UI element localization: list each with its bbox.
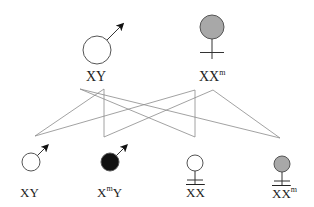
genotype-text: XX [186,185,205,200]
genotype-text: Y [113,185,122,200]
genotype-superscript: m [106,184,112,193]
genotype-superscript: m [219,68,225,77]
cross-line [35,90,195,136]
normal-circle [22,153,40,171]
parent-female-genotype: XXm [199,70,225,84]
cross-line [35,89,104,136]
parent-male-symbol [83,24,123,64]
genotype-text: X [97,185,106,200]
child-4-genotype: XXm [272,187,297,200]
cross-line [213,90,280,138]
male-arrow-icon [107,24,123,40]
affected-circle [101,153,119,171]
offspring-female-symbol [274,156,290,186]
parent-male-genotype: XY [86,70,106,84]
normal-circle [83,36,111,64]
male-arrow-icon [37,145,47,155]
genotype-text: XY [20,185,39,200]
cross-lines [35,89,280,138]
cross-line [104,90,213,137]
normal-circle [187,155,203,171]
parent-female-symbol [200,15,224,59]
offspring-male-symbol [101,145,127,171]
child-2-genotype: XmY [97,186,122,199]
carrier-circle [200,15,224,39]
child-1-genotype: XY [20,186,39,199]
genotype-text: XX [199,69,219,84]
child-3-genotype: XX [186,186,205,199]
genotype-text: XY [86,69,106,84]
offspring-male-symbol [22,145,48,171]
symbols [22,15,290,186]
offspring-female-symbol [187,155,203,185]
genotype-text: XX [272,186,291,201]
genotype-superscript: m [291,185,297,194]
male-arrow-icon [116,145,126,155]
pedigree-diagram [0,0,314,207]
carrier-circle [274,156,290,172]
